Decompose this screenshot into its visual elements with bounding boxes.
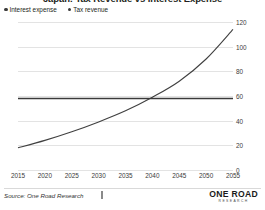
x-axis-tick-label: 2035 [118, 172, 132, 179]
x-axis-tick-label: 2025 [65, 172, 79, 179]
x-axis-tick-label: 2015 [11, 172, 25, 179]
x-axis-tick-label: 2055 [226, 172, 240, 179]
series-layer [18, 22, 233, 170]
y-axis-tick-label: 60 [236, 93, 243, 100]
y-axis-tick-label: 100 [236, 43, 247, 50]
legend-label-tax-revenue: Tax revenue [73, 6, 108, 13]
x-axis-tick-label: 2020 [38, 172, 52, 179]
brand-logo: ONE ROAD RESEARCH [209, 190, 258, 204]
x-axis-tick-label: 2045 [172, 172, 186, 179]
chart-title: Japan: Tax Revenue vs Interest Expense [0, 0, 265, 4]
legend-item-interest-expense[interactable]: Interest expense [4, 6, 57, 13]
legend-dot-icon [4, 8, 8, 12]
x-axis: 201520202025203020352040204520502055 [18, 172, 233, 183]
plot-area [18, 22, 233, 170]
chart-legend: Interest expense Tax revenue [4, 6, 108, 13]
legend-label-interest-expense: Interest expense [10, 6, 57, 13]
brand-subtitle: RESEARCH [209, 200, 258, 203]
gridline [18, 170, 233, 171]
line-interest-expense [18, 29, 233, 147]
page-marker [101, 191, 103, 199]
source-note: Source: One Road Research [4, 192, 83, 199]
y-axis-tick-label: 40 [236, 117, 243, 124]
x-axis-tick-label: 2050 [199, 172, 213, 179]
legend-item-tax-revenue[interactable]: Tax revenue [68, 6, 108, 13]
y-axis-tick-label: 80 [236, 68, 243, 75]
y-axis: 020406080100120 [236, 22, 264, 170]
x-axis-tick-label: 2030 [92, 172, 106, 179]
y-axis-tick-label: 120 [236, 19, 247, 26]
x-axis-tick-label: 2040 [145, 172, 159, 179]
brand-name: ONE ROAD [209, 190, 258, 199]
y-axis-tick-label: 20 [236, 142, 243, 149]
chart-card: Japan: Tax Revenue vs Interest Expense I… [0, 0, 265, 210]
legend-dot-icon [68, 8, 72, 12]
